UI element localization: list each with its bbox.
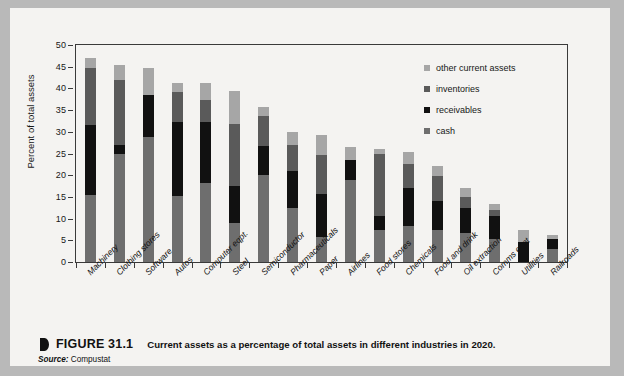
legend-swatch-cash xyxy=(424,128,430,134)
x-axis-tick-mark xyxy=(307,263,308,268)
bar-segment-receivables xyxy=(143,95,154,137)
legend-item: cash xyxy=(424,126,516,136)
bar-segment-receivables xyxy=(345,160,356,180)
y-axis-tick-label: 15 xyxy=(56,192,66,202)
bar-machinery xyxy=(85,58,96,262)
legend-item: receivables xyxy=(424,105,516,115)
x-axis-tick-mark xyxy=(538,263,539,268)
y-axis-tick-mark xyxy=(68,219,73,220)
figure-source: Source: Compustat xyxy=(38,355,110,364)
y-axis-tick-label: 20 xyxy=(56,170,66,180)
bar-segment-cash xyxy=(200,183,211,262)
bar-segment-receivables xyxy=(432,201,443,230)
legend-swatch-other-current-assets xyxy=(424,65,430,71)
bar-computer-eqpt xyxy=(200,83,211,262)
bar-airlines xyxy=(345,147,356,262)
bar-segment-other-current-assets xyxy=(114,65,125,79)
bar-segment-other-current-assets xyxy=(258,107,269,116)
bar-segment-inventories xyxy=(200,100,211,122)
y-axis-tick-label: 50 xyxy=(56,40,66,50)
bar-segment-cash xyxy=(258,175,269,262)
bar-segment-inventories xyxy=(403,164,414,188)
bar-segment-inventories xyxy=(172,92,183,122)
bar-segment-other-current-assets xyxy=(143,68,154,96)
bar-segment-other-current-assets xyxy=(85,58,96,68)
y-axis-tick-mark xyxy=(68,262,73,263)
bar-segment-other-current-assets xyxy=(287,132,298,145)
figure-caption-text: Current assets as a percentage of total … xyxy=(147,339,495,350)
bar-segment-receivables xyxy=(374,216,385,229)
bar-segment-other-current-assets xyxy=(200,83,211,99)
legend-item: other current assets xyxy=(424,63,516,73)
bar-segment-cash xyxy=(374,230,385,262)
chart-legend: other current assets inventories receiva… xyxy=(424,63,516,147)
x-axis-tick-mark xyxy=(163,263,164,268)
bar-segment-other-current-assets xyxy=(229,91,240,124)
legend-item: inventories xyxy=(424,84,516,94)
y-axis-tick-mark xyxy=(68,110,73,111)
bar-segment-inventories xyxy=(85,68,96,126)
y-axis-tick-label: 35 xyxy=(56,105,66,115)
y-axis-tick-mark xyxy=(68,197,73,198)
bar-segment-inventories xyxy=(374,154,385,217)
figure-bullet-icon xyxy=(40,338,49,351)
x-axis-tick-mark xyxy=(423,263,424,268)
y-axis-tick-mark xyxy=(68,45,73,46)
bar-segment-other-current-assets xyxy=(172,83,183,93)
y-axis-tick-label: 10 xyxy=(56,214,66,224)
x-axis-tick-mark xyxy=(220,263,221,268)
bar-segment-inventories xyxy=(460,197,471,207)
bar-segment-receivables xyxy=(287,171,298,208)
bar-segment-cash xyxy=(85,195,96,262)
y-axis-tick-mark xyxy=(68,154,73,155)
y-axis-tick-label: 45 xyxy=(56,62,66,72)
bar-segment-cash xyxy=(345,180,356,262)
bar-segment-inventories xyxy=(229,124,240,186)
x-axis-tick-mark xyxy=(509,263,510,268)
bar-segment-receivables xyxy=(172,122,183,196)
legend-label: cash xyxy=(436,126,455,136)
bar-railroads xyxy=(547,235,558,262)
bar-food-stores xyxy=(374,149,385,262)
x-axis-tick-mark xyxy=(278,263,279,268)
figure-caption: FIGURE 31.1 Current assets as a percenta… xyxy=(40,337,600,351)
bar-segment-receivables xyxy=(547,239,558,249)
bar-segment-receivables xyxy=(200,122,211,183)
bar-segment-inventories xyxy=(287,145,298,171)
y-axis-tick-label: 5 xyxy=(61,235,66,245)
x-axis-tick-mark xyxy=(249,263,250,268)
legend-label: other current assets xyxy=(436,63,516,73)
bar-segment-receivables xyxy=(85,125,96,195)
bar-segment-other-current-assets xyxy=(432,166,443,176)
bar-clothing-stores xyxy=(114,65,125,262)
y-axis-title: Percent of total assets xyxy=(25,47,36,197)
y-axis-tick-label: 0 xyxy=(61,257,66,267)
bar-segment-other-current-assets xyxy=(403,152,414,163)
x-axis-tick-mark xyxy=(567,263,568,268)
x-axis-tick-mark xyxy=(480,263,481,268)
y-axis-tick-mark xyxy=(68,240,73,241)
x-axis-tick-mark xyxy=(134,263,135,268)
bar-segment-other-current-assets xyxy=(345,147,356,160)
bar-autos xyxy=(172,83,183,262)
bar-segment-inventories xyxy=(258,116,269,146)
y-axis-tick-label: 30 xyxy=(56,127,66,137)
x-axis-tick-mark xyxy=(336,263,337,268)
legend-swatch-receivables xyxy=(424,107,430,113)
legend-label: inventories xyxy=(436,84,480,94)
figure-page: Percent of total assets 0510152025303540… xyxy=(0,0,624,376)
x-axis: MachineryClothing storesSoftwareAutosCom… xyxy=(76,263,567,275)
bar-segment-receivables xyxy=(403,188,414,226)
y-axis-tick-mark xyxy=(68,175,73,176)
x-axis-tick-mark xyxy=(192,263,193,268)
bar-segment-other-current-assets xyxy=(460,188,471,198)
x-axis-tick-mark xyxy=(451,263,452,268)
bar-segment-receivables xyxy=(316,194,327,237)
bar-segment-inventories xyxy=(432,176,443,202)
source-value: Compustat xyxy=(71,355,111,364)
y-axis-tick-mark xyxy=(68,132,73,133)
bar-segment-inventories xyxy=(114,80,125,145)
y-axis-tick-label: 25 xyxy=(56,149,66,159)
bar-segment-receivables xyxy=(258,146,269,175)
y-axis: Percent of total assets 0510152025303540… xyxy=(10,38,74,270)
